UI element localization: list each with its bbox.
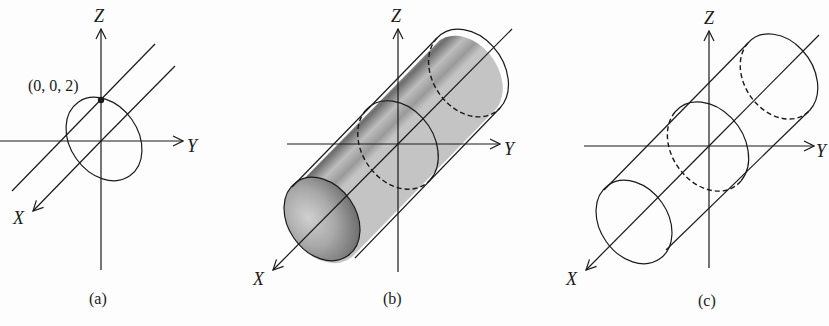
x-label: X (565, 269, 578, 289)
caption-b: (b) (383, 290, 402, 308)
y-label: Y (816, 141, 828, 161)
panel-a: (0, 0, 2) Z Y X (a) (0, 6, 199, 308)
x-label: X (12, 208, 25, 228)
z-label: Z (391, 6, 402, 26)
y-label: Y (187, 136, 199, 156)
x-axis-back (709, 35, 819, 146)
x-axis (586, 146, 709, 270)
x-axis (33, 141, 101, 211)
panel-c: Z Y X (c) (565, 8, 828, 310)
line-through-point (12, 44, 155, 191)
figure-canvas: (0, 0, 2) Z Y X (a) Z Y X (b) (0, 0, 829, 326)
caption-c: (c) (698, 292, 716, 310)
caption-a: (a) (89, 290, 107, 308)
panel-b: Z Y X (b) (252, 6, 516, 308)
x-label: X (252, 269, 265, 289)
z-label: Z (704, 8, 715, 28)
point-0-0-2 (98, 97, 104, 103)
z-label: Z (94, 6, 105, 26)
y-label: Y (504, 139, 516, 159)
point-label: (0, 0, 2) (28, 77, 79, 95)
